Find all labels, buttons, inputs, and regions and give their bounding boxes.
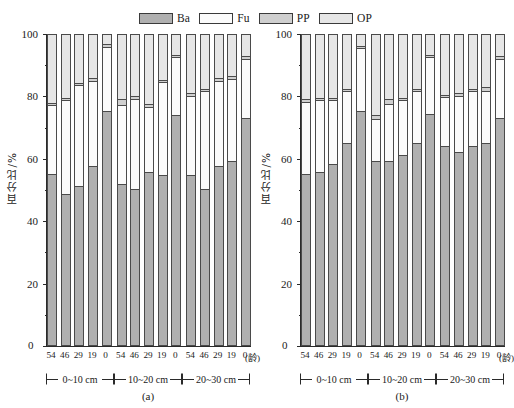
y-tick-mark-100	[43, 34, 47, 35]
stacked-bar[interactable]	[468, 34, 478, 346]
panel-caption-a: (a)	[46, 390, 250, 402]
bar-segment-fu	[469, 92, 477, 147]
bar-segment-fu	[441, 98, 449, 147]
y-axis-ticks: 20406080100	[270, 34, 296, 346]
plot-area-b	[300, 34, 505, 347]
stacked-bar[interactable]	[481, 34, 491, 346]
bar-segment-op	[329, 35, 337, 99]
bracket-rule-left	[114, 379, 126, 380]
stacked-bar[interactable]	[371, 34, 381, 346]
bar-segment-fu	[496, 60, 504, 119]
stacked-bar[interactable]	[398, 34, 408, 346]
stacked-bar[interactable]	[412, 34, 422, 346]
bar-segment-op	[172, 35, 180, 56]
stacked-bar[interactable]	[495, 34, 505, 346]
stacked-bar[interactable]	[214, 34, 224, 346]
x-tick-19: 19	[341, 346, 351, 360]
stacked-bar[interactable]	[356, 34, 366, 346]
bar-segment-ba	[75, 187, 83, 345]
x-tick-0: 0	[170, 346, 180, 360]
y-tick-80: 80	[27, 90, 38, 102]
bar-segment-ba	[413, 144, 421, 345]
stacked-bar[interactable]	[454, 34, 464, 346]
stacked-bar[interactable]	[144, 34, 154, 346]
bar-segment-op	[118, 35, 126, 100]
bar-segment-fu	[89, 82, 97, 167]
bar-group	[371, 34, 436, 346]
y-tick-mark-40	[43, 221, 47, 222]
stacked-bar[interactable]	[440, 34, 450, 346]
stacked-bar[interactable]	[425, 34, 435, 346]
bar-segment-fu	[215, 82, 223, 167]
chart-legend: BaFuPPOP	[0, 8, 511, 28]
x-tick-29: 29	[397, 346, 407, 360]
y-tick-100: 100	[276, 28, 293, 40]
bar-segment-fu	[187, 97, 195, 176]
bar-segment-op	[215, 35, 223, 79]
bar-segment-ba	[131, 190, 139, 345]
x-tick-group: 544629190	[370, 346, 435, 360]
bar-segment-fu	[316, 101, 324, 173]
bar-segment-ba	[399, 156, 407, 345]
stacked-bar[interactable]	[102, 34, 112, 346]
depth-bracket: 20~30 cm	[182, 370, 250, 388]
stacked-bar[interactable]	[200, 34, 210, 346]
bar-segment-fu	[201, 92, 209, 190]
x-tick-46: 46	[199, 346, 209, 360]
bracket-rule-left	[368, 379, 380, 380]
bar-segment-ba	[172, 116, 180, 345]
stacked-bar[interactable]	[61, 34, 71, 346]
y-tick-mark-10	[45, 315, 48, 316]
bar-segment-ba	[357, 112, 365, 345]
bar-segment-fu	[302, 103, 310, 175]
bar-segment-ba	[215, 167, 223, 345]
stacked-bar[interactable]	[342, 34, 352, 346]
x-axis-ticks-b: 544629190544629190544629190	[300, 346, 504, 366]
stacked-bar[interactable]	[384, 34, 394, 346]
stacked-bar[interactable]	[171, 34, 181, 346]
bar-segment-fu	[385, 105, 393, 163]
x-tick-19: 19	[157, 346, 167, 360]
bar-segment-fu	[343, 92, 351, 144]
stacked-bar[interactable]	[315, 34, 325, 346]
stacked-bar[interactable]	[227, 34, 237, 346]
x-tick-54: 54	[185, 346, 195, 360]
stacked-bar[interactable]	[241, 34, 251, 346]
x-tick-19: 19	[87, 346, 97, 360]
x-tick-29: 29	[467, 346, 477, 360]
bar-segment-fu	[118, 106, 126, 185]
bar-segment-op	[159, 35, 167, 81]
depth-bracket: 0~10 cm	[300, 370, 368, 388]
x-tick-29: 29	[73, 346, 83, 360]
bar-segment-ba	[201, 190, 209, 345]
stacked-bar[interactable]	[328, 34, 338, 346]
bar-segment-fu	[399, 101, 407, 156]
y-tick-mark-70	[299, 128, 302, 129]
stacked-bar[interactable]	[74, 34, 84, 346]
depth-label: 0~10 cm	[314, 374, 353, 385]
x-tick-0: 0	[355, 346, 365, 360]
bar-segment-op	[343, 35, 351, 90]
y-tick-mark-60	[297, 159, 301, 160]
bar-segment-op	[131, 35, 139, 97]
panel-caption-b: (b)	[300, 390, 504, 402]
bar-segment-op	[187, 35, 195, 94]
bracket-rule-left	[182, 379, 194, 380]
bar-segment-ba	[482, 144, 490, 345]
bar-segment-ba	[62, 195, 70, 345]
bar-segment-fu	[426, 58, 434, 114]
bar-segment-op	[62, 35, 70, 99]
legend-fu-label: Fu	[237, 13, 250, 24]
stacked-bar[interactable]	[301, 34, 311, 346]
bar-group	[117, 34, 182, 346]
bar-segment-op	[228, 35, 236, 77]
bar-segment-ba	[159, 176, 167, 345]
stacked-bar[interactable]	[88, 34, 98, 346]
stacked-bar[interactable]	[158, 34, 168, 346]
x-tick-0: 0	[101, 346, 111, 360]
stacked-bar[interactable]	[47, 34, 57, 346]
legend-op: OP	[319, 13, 372, 24]
stacked-bar[interactable]	[186, 34, 196, 346]
stacked-bar[interactable]	[130, 34, 140, 346]
stacked-bar[interactable]	[117, 34, 127, 346]
